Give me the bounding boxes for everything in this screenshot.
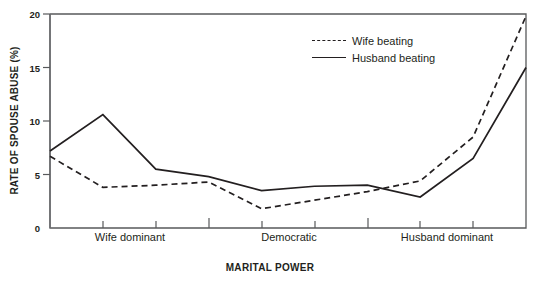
series-line-wife-beating xyxy=(50,16,526,209)
y-axis-ticks xyxy=(43,14,50,175)
plot-frame xyxy=(50,14,526,228)
chart-legend: Wife beating Husband beating xyxy=(312,32,435,66)
series-line-husband-beating xyxy=(50,68,526,197)
chart-figure: RATE OF SPOUSE ABUSE (%) 20 15 10 5 0 xyxy=(0,0,540,290)
legend-swatch-dashed-line-icon xyxy=(312,35,346,46)
x-axis-ticks xyxy=(103,218,473,228)
chart-plot xyxy=(0,0,540,290)
x-tick-label-democratic: Democratic xyxy=(261,231,317,243)
legend-item-wife-beating: Wife beating xyxy=(312,32,435,49)
legend-label-husband-beating: Husband beating xyxy=(352,52,435,64)
legend-label-wife-beating: Wife beating xyxy=(352,35,413,47)
legend-swatch-solid-line-icon xyxy=(312,52,346,63)
legend-item-husband-beating: Husband beating xyxy=(312,49,435,66)
x-axis-title: MARITAL POWER xyxy=(0,262,540,273)
x-tick-label-husband-dominant: Husband dominant xyxy=(401,231,493,243)
x-tick-label-wife-dominant: Wife dominant xyxy=(95,231,165,243)
